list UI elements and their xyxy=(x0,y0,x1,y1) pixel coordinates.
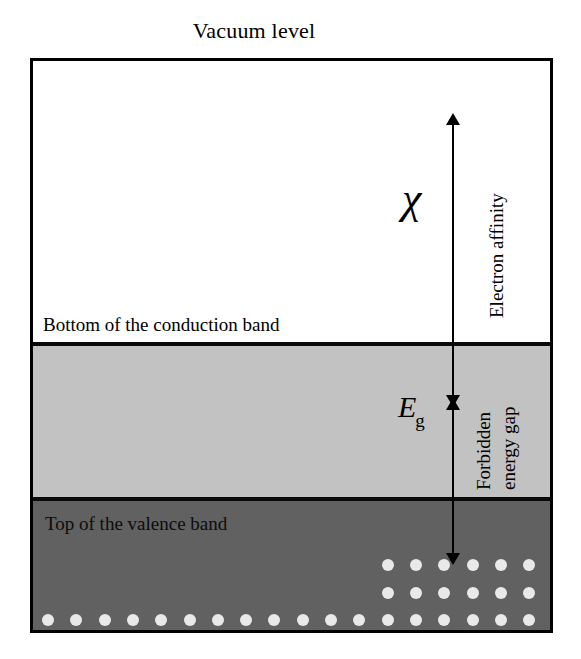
forbidden-gap-caption-line2: energy gap xyxy=(499,406,519,490)
arrowhead-down-icon xyxy=(446,553,460,565)
forbidden-gap-caption-line1: Forbidden xyxy=(474,412,494,490)
electron-dot xyxy=(353,614,365,626)
electron-dot xyxy=(467,559,479,571)
electron-dot xyxy=(438,614,450,626)
electron-dot xyxy=(410,559,422,571)
energy-gap-symbol-base: E xyxy=(398,390,416,423)
electron-dot xyxy=(155,614,167,626)
electron-dot xyxy=(523,559,535,571)
electron-dot xyxy=(495,559,507,571)
electron-dot xyxy=(70,614,82,626)
energy-gap-symbol-subscript: g xyxy=(415,410,425,431)
electron-dot xyxy=(240,614,252,626)
electron-dot xyxy=(297,614,309,626)
electron-dot xyxy=(523,587,535,599)
electron-dot xyxy=(268,614,280,626)
vacuum-level-label: Vacuum level xyxy=(0,18,508,44)
energy-gap-arrow xyxy=(452,409,454,554)
energy-band-diagram: Vacuum level Bottom of the conduction ba… xyxy=(0,0,581,659)
electron-dot xyxy=(523,614,535,626)
valence-band-label: Top of the valence band xyxy=(45,513,227,535)
electron-dot xyxy=(410,614,422,626)
electron-dot xyxy=(495,614,507,626)
valence-band-region: Top of the valence band xyxy=(33,497,550,630)
electron-dot xyxy=(467,614,479,626)
electron-dot xyxy=(467,587,479,599)
electron-dot xyxy=(495,587,507,599)
conduction-band-region: Bottom of the conduction band xyxy=(33,61,550,342)
electron-dot xyxy=(382,587,394,599)
electron-dot xyxy=(382,614,394,626)
electron-dot xyxy=(42,614,54,626)
electron-affinity-caption: Electron affinity xyxy=(487,193,507,318)
electron-dot xyxy=(382,559,394,571)
electron-dot xyxy=(410,587,422,599)
electron-dot xyxy=(212,614,224,626)
arrowhead-up-icon xyxy=(446,113,460,125)
electron-dot xyxy=(184,614,196,626)
electron-dot xyxy=(99,614,111,626)
band-diagram-box: Bottom of the conduction band Top of the… xyxy=(30,58,553,633)
electron-dot xyxy=(127,614,139,626)
arrowhead-up-icon xyxy=(446,398,460,410)
electron-affinity-arrow xyxy=(452,124,454,396)
conduction-band-label: Bottom of the conduction band xyxy=(43,314,279,336)
energy-gap-symbol: Eg xyxy=(398,392,426,433)
electron-dot xyxy=(438,587,450,599)
chi-symbol: χ xyxy=(402,177,421,221)
electron-dot xyxy=(325,614,337,626)
